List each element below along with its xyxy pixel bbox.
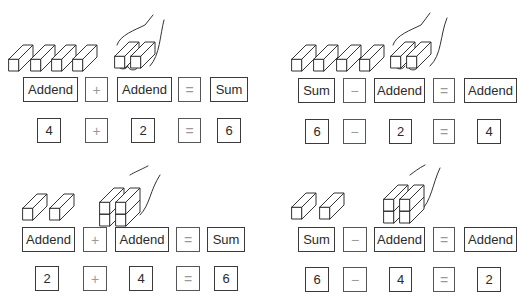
equals-operator: =	[433, 267, 455, 292]
minus-operator: −	[343, 227, 367, 252]
word-sum: Sum	[298, 227, 335, 252]
panel-subtraction-6-minus-4: Sum − Addend = Addend 6 − 4 = 2	[0, 0, 529, 307]
word-addend-2: Addend	[464, 227, 517, 252]
number-sum: 6	[305, 267, 329, 292]
minus-operator: −	[343, 267, 367, 292]
equals-operator: =	[433, 227, 455, 252]
number-addend-2: 2	[477, 267, 501, 292]
word-addend-1: Addend	[374, 227, 425, 252]
number-addend-1: 4	[389, 267, 412, 292]
